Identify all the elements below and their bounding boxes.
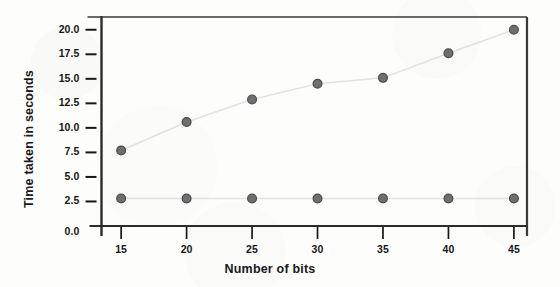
y-tick-label: 5.0 xyxy=(40,170,80,182)
plot-area xyxy=(0,0,560,287)
y-tick-label: 10.0 xyxy=(40,121,80,133)
x-tick-label: 20 xyxy=(172,243,202,255)
x-tick-label: 45 xyxy=(499,243,529,255)
x-tick-label: 35 xyxy=(368,243,398,255)
y-tick-label: 2.5 xyxy=(40,194,80,206)
x-tick-label: 30 xyxy=(303,243,333,255)
y-tick-label: 17.5 xyxy=(40,47,80,59)
chart-figure: Time taken in seconds Number of bits 0.0… xyxy=(0,0,560,287)
series-markers xyxy=(117,25,519,203)
x-tick-label: 25 xyxy=(237,243,267,255)
x-tick-label: 15 xyxy=(106,243,136,255)
y-tick-label: 7.5 xyxy=(40,145,80,157)
axis-ticks xyxy=(86,30,514,239)
x-tick-label: 40 xyxy=(433,243,463,255)
series-lines xyxy=(121,30,514,199)
y-tick-label: 15.0 xyxy=(40,72,80,84)
y-tick-label: 20.0 xyxy=(40,23,80,35)
y-tick-label: 12.5 xyxy=(40,96,80,108)
y-axis-title: Time taken in seconds xyxy=(22,44,36,234)
x-axis-title: Number of bits xyxy=(180,262,360,276)
y-tick-label: 0.0 xyxy=(40,225,80,237)
